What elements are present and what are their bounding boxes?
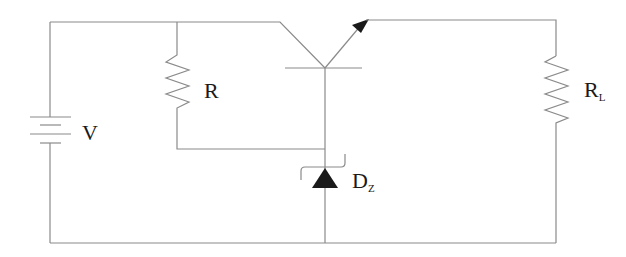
emitter-lead <box>325 24 362 68</box>
battery-icon <box>30 117 71 143</box>
label-dz: DZ <box>352 168 375 194</box>
zener-diode-icon <box>301 154 345 188</box>
resistor-r-icon <box>166 22 325 149</box>
label-r: R <box>204 78 219 103</box>
label-v: V <box>82 120 98 145</box>
circuit-diagram: R V DZ RL <box>0 0 626 257</box>
schematic-svg: R V DZ RL <box>0 0 626 257</box>
top-wire-left <box>50 22 325 68</box>
top-wire-right <box>366 20 556 56</box>
resistor-rl-icon <box>545 56 568 243</box>
label-rl: RL <box>584 77 606 103</box>
emitter-arrow-icon <box>352 19 369 33</box>
